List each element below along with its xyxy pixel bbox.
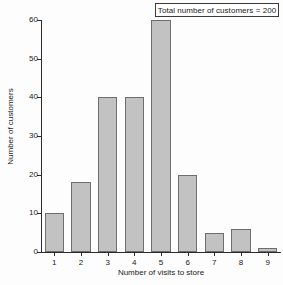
bar	[258, 248, 277, 252]
x-axis-title: Number of visits to store	[41, 268, 281, 277]
x-tick-label: 6	[185, 258, 189, 267]
bar	[71, 182, 90, 252]
bar	[231, 229, 250, 252]
x-tick-mark	[108, 252, 109, 256]
x-tick-label: 7	[212, 258, 216, 267]
x-tick-mark	[214, 252, 215, 256]
x-axis-title-label: Number of visits to store	[118, 268, 204, 277]
bar	[205, 233, 224, 252]
y-tick-label: 50	[29, 54, 38, 63]
x-tick-label: 8	[239, 258, 243, 267]
y-tick-label: 10	[29, 208, 38, 217]
x-tick-mark	[188, 252, 189, 256]
y-tick-label: 40	[29, 92, 38, 101]
x-tick-mark	[134, 252, 135, 256]
bar-chart: Total number of customers = 200 Number o…	[0, 0, 283, 285]
x-tick-label: 2	[79, 258, 83, 267]
bar	[45, 213, 64, 252]
y-axis-title: Number of customers	[3, 0, 17, 252]
total-customers-annotation: Total number of customers = 200	[155, 3, 279, 17]
x-tick-label: 1	[52, 258, 56, 267]
x-tick-mark	[81, 252, 82, 256]
y-tick-label: 20	[29, 170, 38, 179]
x-tick-mark	[161, 252, 162, 256]
annotation-text: Total number of customers = 200	[158, 6, 276, 15]
y-axis-title-label: Number of customers	[6, 88, 15, 164]
x-tick-mark	[54, 252, 55, 256]
y-tick-label: 30	[29, 131, 38, 140]
bar	[125, 97, 144, 252]
x-tick-label: 5	[159, 258, 163, 267]
y-tick-label: 0	[34, 247, 38, 256]
bar	[98, 97, 117, 252]
bar	[178, 175, 197, 252]
x-tick-mark	[268, 252, 269, 256]
x-tick-label: 9	[265, 258, 269, 267]
bar	[151, 20, 170, 252]
x-tick-label: 4	[132, 258, 136, 267]
x-tick-mark	[241, 252, 242, 256]
y-tick-label: 60	[29, 15, 38, 24]
bars-layer	[41, 20, 281, 252]
x-tick-label: 3	[105, 258, 109, 267]
